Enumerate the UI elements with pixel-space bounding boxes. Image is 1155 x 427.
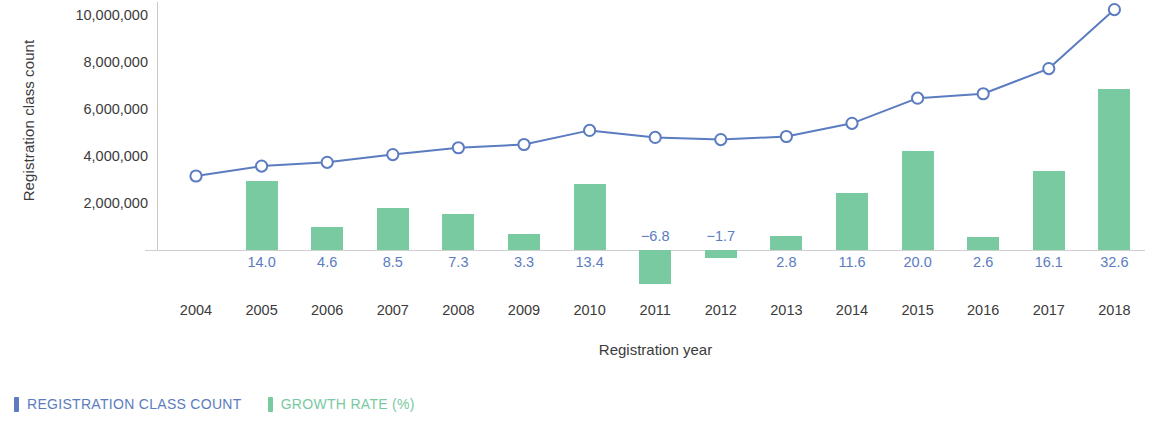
line-data-point-marker[interactable] — [781, 131, 792, 142]
legend-item[interactable]: REGISTRATION CLASS COUNT — [14, 396, 242, 412]
y-axis-tick-label: 4,000,000 — [0, 148, 148, 164]
y-axis-tick-label: 2,000,000 — [0, 195, 148, 211]
y-axis-tick-label: 10,000,000 — [0, 7, 148, 23]
legend-label: GROWTH RATE (%) — [281, 396, 415, 412]
line-path — [196, 10, 1114, 176]
x-axis-tick-label: 2007 — [377, 302, 409, 318]
line-data-point-marker[interactable] — [846, 118, 857, 129]
x-axis-tick-label: 2006 — [311, 302, 343, 318]
plot-area: 14.04.68.57.33.313.4−6.8−1.72.811.620.02… — [157, 0, 1151, 290]
x-axis-tick-label: 2004 — [180, 302, 212, 318]
chart-legend: REGISTRATION CLASS COUNTGROWTH RATE (%) — [14, 396, 415, 412]
x-axis-tick-label: 2009 — [508, 302, 540, 318]
legend-swatch-icon — [14, 397, 19, 412]
x-axis-tick-label: 2014 — [836, 302, 868, 318]
legend-item[interactable]: GROWTH RATE (%) — [268, 396, 415, 412]
legend-label: REGISTRATION CLASS COUNT — [27, 396, 242, 412]
line-data-point-marker[interactable] — [453, 142, 464, 153]
line-data-point-marker[interactable] — [978, 88, 989, 99]
x-axis-tick-label: 2018 — [1098, 302, 1130, 318]
line-data-point-marker[interactable] — [1043, 63, 1054, 74]
line-data-point-marker[interactable] — [322, 157, 333, 168]
line-data-point-marker[interactable] — [518, 139, 529, 150]
y-axis-tick-labels: 2,000,0004,000,0006,000,0008,000,00010,0… — [0, 0, 148, 260]
line-data-point-marker[interactable] — [256, 161, 267, 172]
line-data-point-marker[interactable] — [912, 93, 923, 104]
line-data-point-marker[interactable] — [715, 134, 726, 145]
x-axis-tick-label: 2011 — [640, 302, 671, 318]
x-axis-tick-label: 2010 — [573, 302, 605, 318]
legend-swatch-icon — [268, 397, 273, 412]
x-axis-tick-label: 2017 — [1033, 302, 1065, 318]
y-axis-tick-label: 6,000,000 — [0, 101, 148, 117]
x-axis-tick-label: 2013 — [770, 302, 802, 318]
x-axis-tick-labels: 2004200520062007200820092010201120122013… — [157, 302, 1151, 326]
x-axis-title-text: Registration year — [599, 341, 712, 358]
x-axis-tick-label: 2012 — [705, 302, 737, 318]
line-data-point-marker[interactable] — [1109, 4, 1120, 15]
x-axis-title: Registration year — [0, 341, 1155, 358]
line-data-point-marker[interactable] — [190, 170, 201, 181]
y-axis-tick-label: 8,000,000 — [0, 54, 148, 70]
chart-figure: Registration class count 2,000,0004,000,… — [0, 0, 1155, 427]
x-axis-tick-label: 2008 — [442, 302, 474, 318]
registration-count-line-series — [157, 0, 1151, 300]
line-data-point-marker[interactable] — [584, 125, 595, 136]
line-data-point-marker[interactable] — [650, 132, 661, 143]
x-axis-tick-label: 2016 — [967, 302, 999, 318]
x-axis-tick-label: 2015 — [901, 302, 933, 318]
x-axis-tick-label: 2005 — [245, 302, 277, 318]
line-data-point-marker[interactable] — [387, 149, 398, 160]
